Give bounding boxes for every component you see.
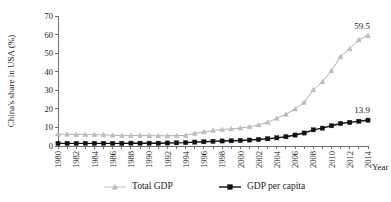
x-tick-label: 1984 — [90, 150, 100, 168]
x-tick-label: 1994 — [181, 150, 191, 168]
x-tick-label: 2008 — [308, 151, 318, 168]
marker-square — [357, 119, 361, 123]
legend-label-gdp-per-capita: GDP per capita — [247, 181, 306, 191]
marker-square — [193, 140, 197, 144]
marker-square — [101, 141, 105, 145]
china-share-usa-line-chart: 010203040506070 198019821984198619881990… — [0, 0, 391, 202]
chart-figure: 010203040506070 198019821984198619881990… — [0, 0, 391, 202]
endpoint-value-label: 59.5 — [354, 21, 370, 31]
marker-square — [229, 139, 233, 143]
marker-square — [156, 141, 160, 145]
marker-square — [266, 137, 270, 141]
y-tick-label: 50 — [45, 48, 54, 58]
marker-square — [247, 138, 251, 142]
x-tick-label: 1996 — [199, 151, 209, 168]
x-tick-label: 2002 — [254, 151, 264, 168]
marker-square — [111, 141, 115, 145]
marker-triangle — [284, 112, 289, 116]
x-tick-label: 2012 — [345, 151, 355, 168]
x-tick-label: 1980 — [53, 151, 63, 168]
marker-square — [348, 120, 352, 124]
marker-square — [202, 140, 206, 144]
marker-square — [320, 126, 324, 130]
marker-square — [120, 141, 124, 145]
marker-square — [83, 141, 87, 145]
marker-square — [339, 121, 343, 125]
marker-square — [92, 141, 96, 145]
marker-triangle — [357, 37, 362, 41]
y-tick-label: 40 — [45, 67, 54, 77]
marker-square — [366, 118, 370, 122]
x-tick-label: 1992 — [163, 151, 173, 168]
x-tick-label: 1986 — [108, 151, 118, 168]
marker-square — [329, 124, 333, 128]
x-tick-label: 2004 — [272, 150, 282, 168]
marker-square — [65, 141, 69, 145]
x-tick-label: 2000 — [236, 151, 246, 168]
marker-square — [293, 133, 297, 137]
x-axis: 1980198219841986198819901992199419961998… — [53, 146, 373, 168]
x-tick-label: 1982 — [71, 151, 81, 168]
marker-square — [238, 138, 242, 142]
y-axis: 010203040506070 — [45, 11, 59, 151]
marker-square — [211, 139, 215, 143]
y-tick-label: 60 — [45, 30, 54, 40]
x-tick-label: 1988 — [126, 151, 136, 168]
marker-square — [311, 128, 315, 132]
marker-square — [220, 139, 224, 143]
marker-square — [74, 141, 78, 145]
marker-square — [302, 131, 306, 135]
marker-square — [284, 135, 288, 139]
data-series-group — [56, 33, 371, 145]
marker-square — [138, 141, 142, 145]
marker-square — [56, 141, 60, 145]
marker-square — [129, 141, 133, 145]
series-line-total-gdp — [58, 36, 368, 136]
y-tick-label: 20 — [45, 104, 54, 114]
y-tick-label: 30 — [45, 85, 54, 95]
y-tick-label: 10 — [45, 122, 54, 132]
marker-square — [174, 141, 178, 145]
marker-square — [147, 141, 151, 145]
y-tick-label: 0 — [49, 141, 53, 151]
x-tick-label: 1990 — [144, 151, 154, 168]
x-tick-label: 2006 — [290, 151, 300, 168]
marker-triangle — [366, 33, 371, 37]
legend-label-total-gdp: Total GDP — [132, 181, 173, 191]
y-axis-title: China's share in USA (%) — [6, 35, 16, 128]
x-tick-label: 2010 — [327, 151, 337, 168]
marker-square — [256, 137, 260, 141]
legend-marker-square — [228, 185, 233, 190]
marker-square — [165, 141, 169, 145]
y-tick-label: 70 — [45, 11, 54, 21]
chart-legend: Total GDPGDP per capita — [104, 181, 306, 191]
x-axis-title: Year — [372, 162, 389, 172]
marker-square — [275, 136, 279, 140]
marker-square — [184, 141, 188, 145]
x-tick-label: 1998 — [217, 151, 227, 168]
endpoint-value-label: 13.9 — [354, 105, 370, 115]
